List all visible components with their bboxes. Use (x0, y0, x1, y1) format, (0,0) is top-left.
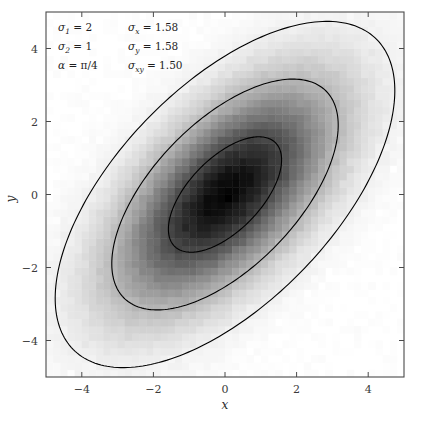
histogram-cell (103, 231, 111, 239)
histogram-cell (239, 49, 247, 57)
histogram-cell (325, 180, 333, 188)
histogram-cell (297, 143, 305, 151)
histogram-cell (139, 246, 147, 254)
histogram-cell (146, 297, 154, 305)
histogram-cell (46, 63, 54, 71)
histogram-cell (268, 348, 276, 356)
histogram-cell (110, 362, 118, 370)
histogram-cell (132, 231, 140, 239)
histogram-cell (161, 246, 169, 254)
histogram-cell (340, 129, 348, 137)
histogram-cell (53, 165, 61, 173)
histogram-cell (161, 231, 169, 239)
histogram-cell (254, 246, 262, 254)
histogram-cell (189, 63, 197, 71)
histogram-cell (232, 209, 240, 217)
histogram-cell (297, 195, 305, 203)
histogram-cell (182, 27, 190, 35)
histogram-cell (168, 289, 176, 297)
histogram-cell (118, 348, 126, 356)
histogram-cell (196, 216, 204, 224)
histogram-cell (282, 41, 290, 49)
histogram-cell (361, 85, 369, 93)
histogram-cell (304, 319, 312, 327)
histogram-cell (225, 173, 233, 181)
histogram-cell (347, 187, 355, 195)
histogram-cell (196, 143, 204, 151)
histogram-cell (361, 195, 369, 203)
histogram-cell (282, 85, 290, 93)
histogram-cell (139, 355, 147, 363)
histogram-cell (161, 370, 169, 378)
histogram-cell (146, 268, 154, 276)
histogram-cell (246, 304, 254, 312)
histogram-cell (311, 143, 319, 151)
histogram-cell (168, 143, 176, 151)
histogram-cell (125, 100, 133, 108)
histogram-cell (168, 129, 176, 137)
histogram-cell (311, 173, 319, 181)
histogram-cell (225, 70, 233, 78)
histogram-cell (196, 282, 204, 290)
histogram-cell (383, 180, 391, 188)
histogram-cell (196, 122, 204, 130)
histogram-cell (297, 49, 305, 57)
histogram-cell (261, 187, 269, 195)
histogram-cell (383, 173, 391, 181)
histogram-cell (368, 158, 376, 166)
histogram-cell (289, 333, 297, 341)
histogram-cell (318, 34, 326, 42)
histogram-cell (82, 370, 90, 378)
histogram-cell (161, 114, 169, 122)
histogram-cell (261, 209, 269, 217)
histogram-cell (361, 12, 369, 20)
histogram-cell (67, 253, 75, 261)
histogram-cell (397, 202, 405, 210)
histogram-cell (89, 238, 97, 246)
histogram-cell (275, 260, 283, 268)
histogram-cell (96, 297, 104, 305)
histogram-cell (125, 224, 133, 232)
histogram-cell (168, 122, 176, 130)
histogram-cell (46, 216, 54, 224)
histogram-cell (332, 289, 340, 297)
histogram-cell (110, 180, 118, 188)
histogram-cell (204, 370, 212, 378)
histogram-cell (325, 27, 333, 35)
histogram-cell (261, 333, 269, 341)
histogram-cell (390, 136, 398, 144)
histogram-cell (103, 180, 111, 188)
histogram-cell (211, 319, 219, 327)
histogram-cell (60, 173, 68, 181)
histogram-cell (361, 165, 369, 173)
histogram-cell (318, 289, 326, 297)
histogram-cell (340, 180, 348, 188)
histogram-cell (354, 231, 362, 239)
histogram-cell (368, 370, 376, 378)
histogram-cell (261, 289, 269, 297)
histogram-cell (368, 246, 376, 254)
histogram-cell (118, 56, 126, 64)
histogram-cell (232, 348, 240, 356)
histogram-cell (311, 275, 319, 283)
histogram-cell (218, 70, 226, 78)
histogram-cell (96, 319, 104, 327)
histogram-cell (347, 27, 355, 35)
histogram-cell (397, 151, 405, 159)
histogram-cell (268, 289, 276, 297)
histogram-cell (268, 165, 276, 173)
histogram-cell (361, 136, 369, 144)
histogram-cell (340, 304, 348, 312)
histogram-cell (246, 100, 254, 108)
histogram-cell (325, 187, 333, 195)
histogram-cell (254, 370, 262, 378)
histogram-cell (75, 333, 83, 341)
histogram-cell (340, 158, 348, 166)
histogram-cell (218, 216, 226, 224)
histogram-cell (246, 151, 254, 159)
histogram-cell (318, 231, 326, 239)
histogram-cell (125, 282, 133, 290)
histogram-cell (132, 260, 140, 268)
histogram-cell (139, 151, 147, 159)
histogram-cell (75, 319, 83, 327)
